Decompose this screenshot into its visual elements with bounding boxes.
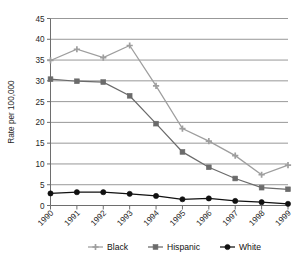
x-tick-labels-group: 1990199119921993199419951996199719981999 [36, 208, 293, 228]
y-tick-label: 15 [35, 139, 45, 148]
cross-marker [285, 162, 291, 168]
circle-marker [74, 190, 79, 195]
legend-item-hispanic[interactable]: Hispanic [148, 242, 201, 252]
y-tick-label: 35 [35, 56, 45, 65]
y-tick-label: 5 [40, 181, 45, 190]
series-white [48, 190, 291, 207]
y-tick-label: 0 [40, 202, 45, 211]
y-axis-title: Rate per 100,000 [7, 80, 16, 144]
series-black [47, 42, 291, 177]
chart-legend: BlackHispanicWhite [88, 242, 261, 252]
x-tick-label: 1992 [89, 208, 109, 228]
legend-item-black[interactable]: Black [88, 242, 129, 252]
chart-canvas: 051015202530354045 199019911992199319941… [0, 0, 300, 264]
legend-label: Hispanic [167, 242, 201, 252]
x-tick-label: 1998 [247, 208, 267, 228]
square-marker [154, 121, 159, 126]
series-line [51, 46, 289, 175]
y-tick-labels-group: 051015202530354045 [35, 15, 45, 211]
cross-marker [92, 244, 98, 250]
circle-marker [225, 244, 230, 249]
y-tick-label: 20 [35, 118, 45, 127]
gridlines-group [51, 19, 289, 206]
square-marker [101, 80, 106, 85]
circle-marker [259, 200, 264, 205]
square-marker [233, 176, 238, 181]
square-marker [259, 185, 264, 190]
cross-marker [127, 42, 133, 48]
circle-marker [48, 191, 53, 196]
x-tick-label: 1997 [221, 208, 241, 228]
x-tick-label: 1991 [63, 208, 83, 228]
circle-marker [127, 191, 132, 196]
square-marker [48, 77, 53, 82]
y-tick-label: 10 [35, 160, 45, 169]
cross-marker [179, 126, 185, 132]
square-marker [127, 93, 132, 98]
circle-marker [285, 201, 290, 206]
circle-marker [206, 196, 211, 201]
circle-marker [180, 197, 185, 202]
circle-marker [101, 190, 106, 195]
square-marker [153, 245, 158, 250]
y-tick-label: 30 [35, 77, 45, 86]
x-tick-label: 1999 [274, 208, 294, 228]
legend-label: White [239, 242, 261, 252]
square-marker [180, 149, 185, 154]
cross-marker [74, 46, 80, 52]
line-chart-figure: 051015202530354045 199019911992199319941… [0, 0, 300, 264]
square-marker [74, 79, 79, 84]
cross-marker [153, 83, 159, 89]
y-tick-label: 40 [35, 35, 45, 44]
x-tick-label: 1996 [195, 208, 215, 228]
axis-ticks-group [47, 19, 288, 210]
y-tick-label: 45 [35, 15, 45, 24]
x-tick-label: 1990 [36, 208, 56, 228]
series-line [51, 192, 289, 204]
series-hispanic [48, 77, 290, 192]
y-tick-label: 25 [35, 98, 45, 107]
square-marker [286, 187, 291, 192]
series-line [51, 79, 289, 189]
legend-item-white[interactable]: White [220, 242, 261, 252]
x-tick-label: 1994 [142, 208, 162, 228]
x-tick-label: 1993 [115, 208, 135, 228]
circle-marker [233, 198, 238, 203]
circle-marker [153, 193, 158, 198]
cross-marker [47, 57, 53, 63]
x-tick-label: 1995 [168, 208, 188, 228]
legend-label: Black [107, 242, 129, 252]
data-series-group [47, 42, 291, 206]
square-marker [206, 165, 211, 170]
